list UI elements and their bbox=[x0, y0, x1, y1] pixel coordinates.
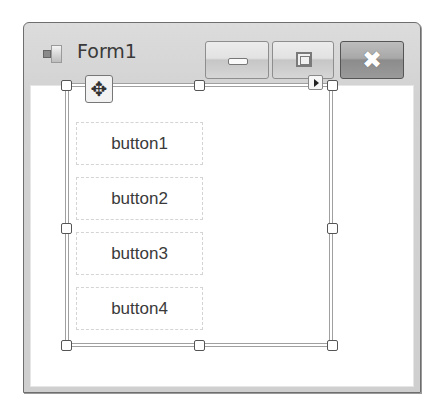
app-icon bbox=[43, 45, 63, 65]
move-icon[interactable]: ✥ bbox=[85, 75, 113, 103]
maximize-icon bbox=[296, 52, 312, 67]
resize-handle-top-right[interactable] bbox=[327, 80, 338, 91]
selection-border-left bbox=[65, 89, 69, 342]
window-title: Form1 bbox=[77, 40, 137, 62]
title-bar[interactable]: Form1 ✖ bbox=[24, 23, 420, 83]
smart-tag-arrow-icon[interactable] bbox=[308, 75, 323, 90]
button3[interactable]: button3 bbox=[76, 232, 203, 275]
close-button[interactable]: ✖ bbox=[340, 41, 404, 79]
close-icon: ✖ bbox=[362, 48, 382, 72]
resize-handle-top[interactable] bbox=[194, 80, 205, 91]
minimize-button[interactable] bbox=[205, 41, 269, 79]
button2[interactable]: button2 bbox=[76, 177, 203, 220]
resize-handle-top-left[interactable] bbox=[61, 80, 72, 91]
button1[interactable]: button1 bbox=[76, 122, 203, 165]
minimize-icon bbox=[228, 58, 248, 65]
button4[interactable]: button4 bbox=[76, 287, 203, 330]
resize-handle-bottom-left[interactable] bbox=[61, 340, 72, 351]
resize-handle-right[interactable] bbox=[327, 223, 338, 234]
resize-handle-bottom-right[interactable] bbox=[327, 340, 338, 351]
resize-handle-left[interactable] bbox=[61, 223, 72, 234]
maximize-button[interactable] bbox=[272, 41, 334, 79]
selection-border-right bbox=[329, 89, 333, 342]
resize-handle-bottom[interactable] bbox=[194, 340, 205, 351]
